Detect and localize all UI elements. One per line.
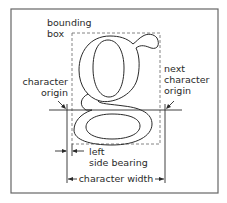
label-bounding-box-1: bounding xyxy=(47,17,92,28)
lsb-dimension xyxy=(55,149,84,153)
glyph-metrics-diagram: bounding box character origin next chara… xyxy=(0,0,227,203)
label-lsb-2: side bearing xyxy=(89,157,148,168)
label-char-origin-1: character xyxy=(23,76,69,87)
label-next-origin-2: character xyxy=(164,74,210,85)
label-char-width: character width xyxy=(79,173,154,184)
label-next-origin-3: origin xyxy=(164,85,191,96)
label-lsb-1: left xyxy=(89,146,105,157)
label-char-origin-2: origin xyxy=(41,87,68,98)
bounding-box xyxy=(72,33,160,144)
label-next-origin-1: next xyxy=(164,63,185,74)
label-bounding-box-2: box xyxy=(47,28,65,39)
arrow-char-origin xyxy=(58,101,66,109)
glyph-g xyxy=(74,34,158,145)
arrow-next-origin xyxy=(166,101,174,109)
